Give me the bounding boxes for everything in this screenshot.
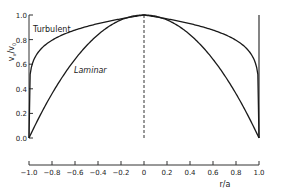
x-tick-label: 0.6	[207, 169, 219, 177]
y-axis-label: vx/v0	[7, 43, 17, 61]
y-tick-label: 0.8	[16, 37, 27, 45]
y-tick-label: 0.2	[16, 110, 27, 118]
x-tick-label: −0.6	[67, 169, 85, 177]
x-tick-label: 0.8	[230, 169, 241, 177]
x-tick-label: 0	[142, 169, 146, 177]
x-axis-ticks: −1.0−0.8−0.6−0.4−0.200.20.40.60.81.0	[21, 161, 265, 177]
laminar-label: Laminar	[74, 66, 107, 75]
svg-text:vx/v0: vx/v0	[7, 43, 17, 61]
x-tick-label: 1.0	[253, 169, 264, 177]
velocity-profile-chart: 0.00.20.40.60.81.0 −1.0−0.8−0.6−0.4−0.20…	[0, 0, 286, 191]
x-tick-label: −0.8	[44, 169, 61, 177]
x-tick-label: −1.0	[21, 169, 38, 177]
turbulent-label: Turbulent	[32, 25, 71, 34]
y-tick-label: 1.0	[16, 12, 27, 20]
x-tick-label: −0.4	[90, 169, 108, 177]
x-axis-label: r/a	[220, 180, 231, 189]
x-tick-label: 0.4	[184, 169, 196, 177]
x-tick-label: 0.2	[161, 169, 172, 177]
y-tick-label: 0.6	[16, 61, 28, 69]
y-tick-label: 0.4	[16, 86, 28, 94]
y-tick-label: 0.0	[16, 135, 27, 143]
x-tick-label: −0.2	[113, 169, 130, 177]
